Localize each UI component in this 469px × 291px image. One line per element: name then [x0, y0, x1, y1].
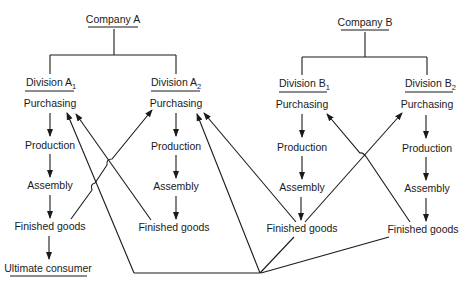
division-b2-subscript: 2 [452, 83, 456, 92]
company-b-tree [302, 32, 427, 75]
division-a1-header: Division A1 [25, 76, 76, 91]
diagram-canvas: Company A Company B Division A1 Division… [0, 0, 469, 291]
svg-text:Division B2: Division B2 [405, 77, 456, 92]
flow-arrows [67, 110, 410, 273]
svg-text:Division A2: Division A2 [151, 76, 201, 91]
division-a2-header: Division A2 [151, 76, 201, 91]
b2-finished-goods: Finished goods [387, 223, 458, 235]
division-a2-label: Division A [151, 76, 197, 88]
flow-b2-to-b1 [327, 114, 410, 222]
b1-production: Production [277, 141, 327, 153]
division-b1-subscript: 1 [326, 83, 330, 92]
a2-production: Production [151, 140, 201, 152]
company-a-node: Company A [86, 13, 140, 27]
flow-a2-to-a1 [76, 114, 151, 220]
b2-assembly: Assembly [404, 182, 450, 194]
flow-b2-down [261, 237, 389, 273]
ultimate-consumer: Ultimate consumer [4, 262, 92, 274]
division-a1-stages: Purchasing Production Assembly Finished … [4, 97, 92, 276]
company-a-tree [50, 29, 176, 74]
b2-purchasing: Purchasing [401, 98, 454, 110]
company-b-node: Company B [338, 16, 393, 30]
flow-to-a2-via-bottom [197, 114, 260, 273]
b1-purchasing: Purchasing [276, 98, 329, 110]
division-a2-subscript: 2 [197, 82, 201, 91]
company-a-label: Company A [86, 13, 140, 25]
a2-purchasing: Purchasing [150, 97, 203, 109]
division-b2-header: Division B2 [405, 77, 456, 92]
division-a1-subscript: 1 [72, 82, 76, 91]
division-b1-stages: Purchasing Production Assembly Finished … [266, 98, 337, 234]
a2-assembly: Assembly [153, 180, 199, 192]
b1-assembly: Assembly [279, 181, 325, 193]
a2-finished-goods: Finished goods [138, 221, 209, 233]
a1-production: Production [25, 139, 75, 151]
svg-text:Division A1: Division A1 [26, 76, 76, 91]
flow-bottom-to-a1 [67, 113, 134, 273]
company-b-label: Company B [338, 16, 393, 28]
division-b2-label: Division B [405, 77, 452, 89]
division-b1-header: Division B1 [279, 77, 330, 92]
b1-finished-goods: Finished goods [266, 222, 337, 234]
division-b1-label: Division B [279, 77, 326, 89]
a1-assembly: Assembly [27, 179, 73, 191]
b2-production: Production [402, 142, 452, 154]
a1-purchasing: Purchasing [24, 97, 77, 109]
division-b2-stages: Purchasing Production Assembly Finished … [387, 98, 458, 235]
flow-b1-down [260, 237, 294, 273]
a1-finished-goods: Finished goods [14, 220, 85, 232]
svg-text:Division B1: Division B1 [279, 77, 330, 92]
flow-b1-to-b2 [305, 113, 402, 222]
division-a1-label: Division A [26, 76, 72, 88]
